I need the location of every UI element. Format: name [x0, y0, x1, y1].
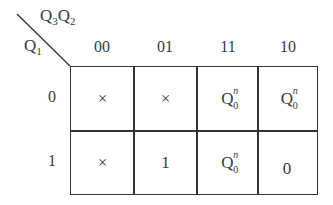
cell-value: 0 [283, 159, 292, 179]
var-q1-sub: 1 [36, 45, 42, 57]
cell-r0-c01: × [134, 67, 197, 131]
column-header-11: 11 [196, 38, 260, 56]
cell-r0-c11: Qn0 [197, 67, 258, 131]
cell-r1-c01: 1 [134, 131, 197, 194]
column-header-00: 00 [70, 38, 134, 56]
q0n-term: Qn0 [281, 89, 293, 109]
row-header-0: 0 [40, 88, 64, 106]
row-header-1: 1 [40, 152, 64, 170]
dont-care-mark: × [98, 153, 108, 173]
q0n-term: Qn0 [221, 153, 233, 173]
var-q3-base: Q [40, 6, 52, 25]
row-variable-label: Q1 [24, 36, 42, 57]
var-q1-base: Q [24, 36, 36, 55]
dont-care-mark: × [98, 89, 108, 109]
column-header-01: 01 [133, 38, 197, 56]
cell-r1-c11: Qn0 [197, 131, 258, 194]
cell-r0-c10: Qn0 [258, 67, 316, 131]
cell-r1-c10: 0 [258, 131, 316, 194]
karnaugh-map-grid: × × Qn0 Qn0 × 1 Qn0 0 [70, 66, 318, 195]
column-header-10: 10 [256, 38, 320, 56]
var-q2-base: Q [58, 6, 70, 25]
column-variables-label: Q3Q2 [40, 6, 76, 27]
var-q2-sub: 2 [70, 15, 76, 27]
cell-r0-c00: × [71, 67, 134, 131]
cell-value: 1 [161, 153, 170, 173]
cell-r1-c00: × [71, 131, 134, 194]
q0n-term: Qn0 [221, 89, 233, 109]
dont-care-mark: × [161, 89, 171, 109]
